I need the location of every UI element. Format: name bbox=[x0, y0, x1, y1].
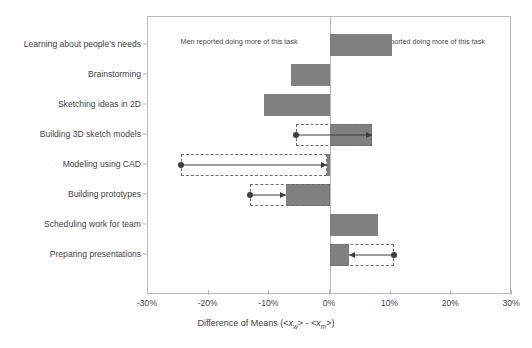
x-axis-title-mid: > - < bbox=[298, 318, 317, 328]
annotation-start-dot bbox=[247, 192, 253, 198]
y-axis-tick bbox=[143, 224, 148, 225]
annotation-arrow-line bbox=[349, 255, 394, 256]
x-axis-tick bbox=[511, 290, 512, 295]
bar bbox=[291, 64, 330, 86]
bar bbox=[327, 154, 330, 176]
y-axis-tick bbox=[143, 74, 148, 75]
x-axis-tick bbox=[268, 290, 269, 295]
x-axis-tick bbox=[390, 290, 391, 295]
y-axis-label: Building prototypes bbox=[1, 189, 141, 199]
y-axis-label: Preparing presentations bbox=[1, 249, 141, 259]
x-axis-tick-label: 30% bbox=[502, 298, 519, 308]
x-axis-tick-label: 10% bbox=[381, 298, 398, 308]
x-axis-title-suffix: >) bbox=[326, 318, 334, 328]
y-axis-tick bbox=[143, 134, 148, 135]
y-axis-label: Modeling using CAD bbox=[1, 159, 141, 169]
x-axis-title-prefix: Difference of Means (< bbox=[197, 318, 288, 328]
y-axis-tick bbox=[143, 194, 148, 195]
chart-root: Learning about people's needsBrainstormi… bbox=[0, 0, 532, 348]
annotation-start-dot bbox=[391, 252, 397, 258]
annotation-arrow-head bbox=[280, 192, 286, 198]
y-axis-label: Sketching ideas in 2D bbox=[1, 99, 141, 109]
y-axis-tick bbox=[143, 254, 148, 255]
x-axis-tick bbox=[147, 290, 148, 295]
annotation-start-dot bbox=[293, 132, 299, 138]
annotation-arrow-line bbox=[181, 165, 327, 166]
annotation-arrow-head bbox=[366, 132, 372, 138]
x-axis-tick-label: -10% bbox=[258, 298, 278, 308]
header-men-label: Men reported doing more of this task bbox=[148, 37, 330, 46]
x-axis-tick bbox=[450, 290, 451, 295]
x-axis-tick-label: -30% bbox=[137, 298, 157, 308]
x-axis-tick bbox=[329, 290, 330, 295]
annotation-start-dot bbox=[178, 162, 184, 168]
x-axis-tick-label: 0% bbox=[323, 298, 335, 308]
x-axis-tick-label: -20% bbox=[198, 298, 218, 308]
bar bbox=[330, 214, 378, 236]
x-axis-title: Difference of Means (<xw> - <xm>) bbox=[0, 318, 532, 330]
y-axis-tick bbox=[143, 44, 148, 45]
bar bbox=[330, 34, 392, 56]
y-axis-label: Building 3D sketch models bbox=[1, 129, 141, 139]
y-axis-label: Learning about people's needs bbox=[1, 39, 141, 49]
x-axis-tick-label: 20% bbox=[442, 298, 459, 308]
x-axis-tick bbox=[208, 290, 209, 295]
y-axis-tick bbox=[143, 104, 148, 105]
y-axis-tick bbox=[143, 164, 148, 165]
y-axis-label: Scheduling work for team bbox=[1, 219, 141, 229]
bar bbox=[264, 94, 330, 116]
annotation-arrow-line bbox=[296, 135, 372, 136]
annotation-arrow-head bbox=[349, 252, 355, 258]
y-axis-label: Brainstorming bbox=[1, 69, 141, 79]
annotation-arrow-head bbox=[321, 162, 327, 168]
plot-area: Men reported doing more of this task Wom… bbox=[147, 16, 511, 294]
